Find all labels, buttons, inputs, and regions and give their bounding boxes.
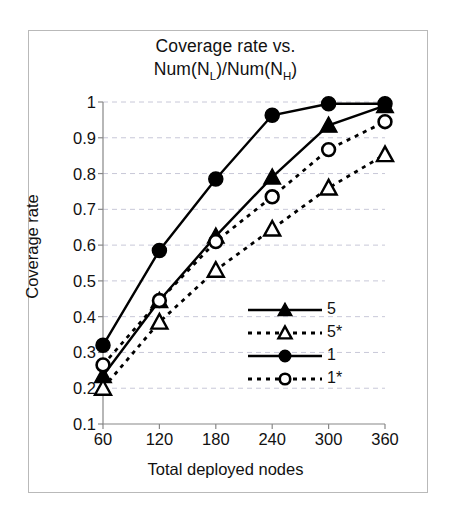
legend-sample bbox=[246, 323, 324, 341]
data-point-marker bbox=[209, 172, 223, 186]
data-point-marker bbox=[322, 143, 335, 156]
chart-legend: 55*11* bbox=[246, 297, 358, 389]
data-point-marker bbox=[279, 350, 290, 361]
legend-label: 5* bbox=[327, 324, 342, 340]
legend-item-5[interactable]: 5 bbox=[246, 297, 358, 320]
data-point-marker bbox=[97, 359, 110, 372]
data-point-marker bbox=[379, 115, 392, 128]
data-point-marker bbox=[96, 338, 110, 352]
legend-label: 1* bbox=[327, 370, 342, 386]
legend-item-1[interactable]: 1 bbox=[246, 343, 358, 366]
data-point-marker bbox=[209, 235, 222, 248]
data-point-marker bbox=[153, 294, 166, 307]
data-point-marker bbox=[152, 243, 166, 257]
data-point-marker bbox=[266, 190, 279, 203]
legend-sample bbox=[246, 346, 324, 364]
data-point-marker bbox=[377, 147, 393, 162]
legend-sample bbox=[246, 300, 324, 318]
figure-canvas: Coverage rate vs. Num(NL)/Num(NH) Covera… bbox=[0, 0, 451, 520]
data-point-marker bbox=[278, 326, 291, 338]
legend-item-5-star[interactable]: 5* bbox=[246, 320, 358, 343]
legend-item-1-star[interactable]: 1* bbox=[246, 366, 358, 389]
plot-area bbox=[0, 0, 451, 520]
data-point-marker bbox=[378, 97, 392, 111]
data-point-marker bbox=[322, 97, 336, 111]
legend-sample bbox=[246, 369, 324, 387]
data-point-marker bbox=[280, 373, 290, 383]
legend-label: 1 bbox=[327, 347, 336, 363]
data-point-marker bbox=[264, 221, 280, 236]
data-point-marker bbox=[265, 108, 279, 122]
data-point-marker bbox=[320, 117, 337, 132]
data-point-marker bbox=[321, 180, 337, 195]
legend-label: 5 bbox=[327, 301, 336, 317]
data-point-marker bbox=[151, 314, 167, 329]
